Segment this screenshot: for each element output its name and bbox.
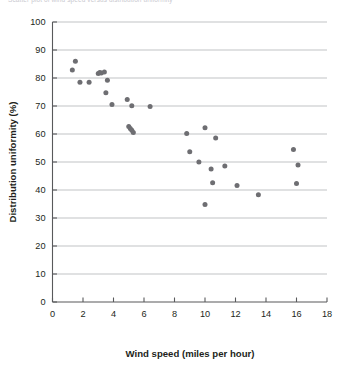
data-point (187, 149, 192, 154)
x-tick-label-10: 10 (200, 309, 210, 319)
x-tick-label-4: 4 (111, 309, 116, 319)
data-point (213, 135, 218, 140)
data-point (77, 80, 82, 85)
data-point (125, 97, 130, 102)
data-point (203, 125, 208, 130)
y-tick-labels-group: 0102030405060708090100 (30, 17, 45, 307)
data-point (210, 180, 215, 185)
x-tick-label-16: 16 (291, 309, 301, 319)
x-tick-label-2: 2 (80, 309, 85, 319)
plot-canvas: 024681012141618 0102030405060708090100 W… (0, 0, 343, 366)
y-tick-label-0: 0 (40, 297, 45, 307)
data-point (291, 147, 296, 152)
x-tick-label-6: 6 (141, 309, 146, 319)
data-points-group (70, 59, 301, 207)
data-point (294, 181, 299, 186)
y-tick-label-30: 30 (35, 213, 45, 223)
data-point (184, 131, 189, 136)
y-tick-label-70: 70 (35, 101, 45, 111)
y-tick-label-10: 10 (35, 269, 45, 279)
data-point (235, 183, 240, 188)
data-point (203, 202, 208, 207)
x-tick-label-18: 18 (322, 309, 332, 319)
y-tick-label-80: 80 (35, 73, 45, 83)
y-tick-label-50: 50 (35, 157, 45, 167)
y-tick-label-90: 90 (35, 45, 45, 55)
x-axis-title: Wind speed (miles per hour) (126, 348, 255, 359)
data-point (105, 78, 110, 83)
data-point (73, 59, 78, 64)
y-axis-title: Distribution uniformity (%) (7, 102, 18, 223)
data-point (70, 67, 75, 72)
data-point (148, 104, 153, 109)
gridlines-group (53, 22, 328, 274)
y-tick-marks-group (53, 22, 58, 302)
data-point (87, 80, 92, 85)
x-tick-label-12: 12 (230, 309, 240, 319)
y-tick-label-20: 20 (35, 241, 45, 251)
y-tick-label-40: 40 (35, 185, 45, 195)
data-point (209, 167, 214, 172)
data-point (256, 192, 261, 197)
data-point (109, 102, 114, 107)
x-tick-marks-group (53, 298, 328, 303)
y-tick-label-100: 100 (30, 17, 45, 27)
data-point (296, 163, 301, 168)
y-tick-label-60: 60 (35, 129, 45, 139)
x-tick-label-0: 0 (50, 309, 55, 319)
data-point (129, 103, 134, 108)
data-point (103, 90, 108, 95)
data-point (222, 163, 227, 168)
data-point (131, 130, 136, 135)
x-tick-label-14: 14 (261, 309, 271, 319)
data-point (196, 160, 201, 165)
x-tick-label-8: 8 (172, 309, 177, 319)
data-point (102, 70, 107, 75)
scatter-plot-figure: Scatter plot of wind speed versus distri… (0, 0, 343, 366)
x-tick-labels-group: 024681012141618 (50, 309, 332, 319)
